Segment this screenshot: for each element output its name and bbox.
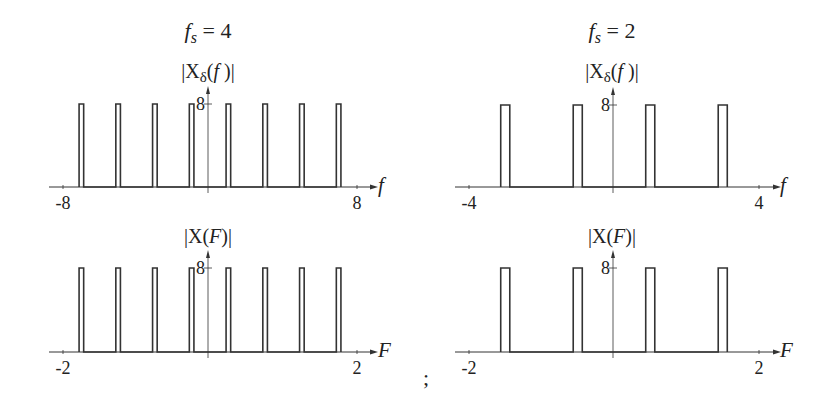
spectrum-pulses xyxy=(79,268,341,352)
x-tick-label: -8 xyxy=(56,193,71,213)
x-axis-arrow-icon xyxy=(370,185,378,190)
separator-semicolon: ; xyxy=(423,365,429,390)
spectrum-pulses xyxy=(501,268,728,352)
column-title-fs: fs = 4 xyxy=(185,18,232,46)
y-axis-arrow-icon xyxy=(611,87,615,95)
y-tick-label: 8 xyxy=(601,95,610,115)
column-title-fs: fs = 2 xyxy=(589,18,636,46)
panel-title: |Xδ(f )| xyxy=(585,60,638,85)
y-axis-arrow-icon xyxy=(611,250,615,258)
x-axis-label: F xyxy=(377,338,391,362)
x-axis-label: f xyxy=(780,173,789,197)
y-tick-label: 8 xyxy=(196,94,205,114)
panel-title: |X(F)| xyxy=(184,225,232,248)
spectrum-panel: |X(F)|8-22F xyxy=(455,225,793,378)
x-axis-label: f xyxy=(378,173,387,197)
x-tick-label: 8 xyxy=(353,193,362,213)
spectrum-figure: fs = 4fs = 2 |Xδ(f )|8-88f|X(F)|8-22F|Xδ… xyxy=(0,0,832,407)
column-titles: fs = 4fs = 2 xyxy=(185,18,636,46)
spectrum-panel: |X(F)|8-22F xyxy=(49,225,391,378)
x-tick-label: -2 xyxy=(56,358,71,378)
spectrum-panels: |Xδ(f )|8-88f|X(F)|8-22F|Xδ(f )|8-44f|X(… xyxy=(49,60,793,378)
x-tick-label: -4 xyxy=(462,193,477,213)
spectrum-panel: |Xδ(f )|8-88f xyxy=(49,60,387,213)
x-tick-label: -2 xyxy=(462,358,477,378)
y-tick-label: 8 xyxy=(196,258,205,278)
y-axis-arrow-icon xyxy=(206,86,210,94)
y-axis-arrow-icon xyxy=(206,250,210,258)
x-axis-arrow-icon xyxy=(370,350,378,355)
y-tick-label: 8 xyxy=(601,258,610,278)
spectrum-pulses xyxy=(79,104,341,187)
spectrum-panel: |Xδ(f )|8-44f xyxy=(455,60,789,213)
x-axis-label: F xyxy=(779,338,793,362)
panel-title: |Xδ(f )| xyxy=(181,60,234,85)
x-tick-label: 4 xyxy=(755,193,764,213)
x-tick-label: 2 xyxy=(353,358,362,378)
spectrum-pulses xyxy=(501,105,728,187)
panel-title: |X(F)| xyxy=(588,225,636,248)
x-tick-label: 2 xyxy=(755,358,764,378)
